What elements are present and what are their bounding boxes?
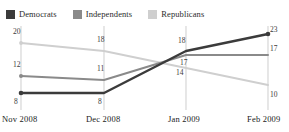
value-label-nov-republicans: 20 [13,28,21,36]
value-label-dec-republicans: 18 [97,36,105,44]
x-axis-tick-nov-2008: Nov 2008 [2,114,37,124]
value-label-nov-democrats: 8 [14,98,18,106]
value-label-dec-independents: 11 [97,65,104,73]
x-axis-tick-jan-2009: Jan 2009 [168,114,200,124]
legend-label-republicans: Republicans [161,10,204,19]
value-label-feb-independents: 17 [270,45,278,53]
series-point-democrats [19,91,24,96]
series-point-independents [19,74,23,78]
value-label-jan-republicans: 14 [176,69,184,77]
x-axis-tick-dec-2008: Dec 2008 [86,114,120,124]
series-line-democrats [21,34,268,93]
value-label-feb-democrats: 23 [270,26,278,34]
legend-swatch-independents [73,10,82,19]
chart-legend: Democrats Independents Republicans [6,8,220,21]
legend-item-independents: Independents [73,10,133,19]
legend-swatch-democrats [6,10,15,19]
plot-svg [0,26,289,110]
value-label-nov-independents: 12 [13,61,21,69]
value-label-jan-democrats: 18 [178,37,186,45]
legend-swatch-republicans [148,10,157,19]
value-label-feb-republicans: 10 [270,91,278,99]
line-chart: Democrats Independents Republicans [0,0,289,132]
legend-label-democrats: Democrats [19,10,57,19]
plot-area: 20 12 8 18 11 8 18 17 14 23 17 10 [0,26,289,110]
value-label-dec-democrats: 8 [98,98,102,106]
series-point-republicans [19,41,23,45]
x-axis-tick-feb-2009: Feb 2009 [247,114,280,124]
legend-item-democrats: Democrats [6,10,57,19]
legend-label-independents: Independents [86,10,133,19]
legend-item-republicans: Republicans [148,10,204,19]
value-label-jan-independents: 17 [180,59,188,67]
x-axis: Nov 2008 Dec 2008 Jan 2009 Feb 2009 [0,112,289,130]
